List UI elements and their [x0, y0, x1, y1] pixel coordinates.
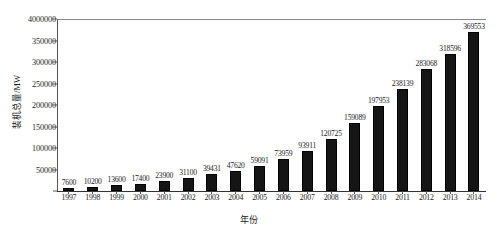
- x-axis-tick-label: 2006: [271, 193, 295, 207]
- bar: [254, 166, 265, 191]
- bar: [159, 181, 170, 191]
- bar-slot: 10200: [81, 19, 105, 191]
- x-axis-tick-label: 2002: [176, 193, 200, 207]
- x-axis-tick-label: 1999: [105, 193, 129, 207]
- top-artifact-band: [0, 0, 497, 8]
- bar-slot: 238139: [391, 19, 415, 191]
- bar-slot: 39431: [200, 19, 224, 191]
- bar-value-label: 93911: [298, 141, 316, 150]
- x-axis-tick-label: 2008: [319, 193, 343, 207]
- x-axis-tick-label: 2010: [367, 193, 391, 207]
- x-axis-tick-label: 1997: [57, 193, 81, 207]
- bar: [183, 178, 194, 191]
- y-axis-tick-label: 4000000: [28, 15, 56, 24]
- x-axis-tick-label: 2000: [128, 193, 152, 207]
- x-axis-tick-label: 2005: [248, 193, 272, 207]
- bar-value-label: 159089: [344, 113, 366, 122]
- bar: [421, 69, 432, 191]
- bar-value-label: 17400: [131, 174, 149, 183]
- x-axis-tick-label: 2003: [200, 193, 224, 207]
- x-axis-tick-label: 2001: [152, 193, 176, 207]
- bar-slot: 59091: [248, 19, 272, 191]
- bar-value-label: 59091: [251, 156, 269, 165]
- x-axis-tick-label: 2011: [391, 193, 415, 207]
- bar: [206, 174, 217, 191]
- bar-slot: 318596: [438, 19, 462, 191]
- bar-value-label: 120725: [320, 129, 342, 138]
- bar: [135, 184, 146, 191]
- x-axis-tick-label: 2014: [462, 193, 486, 207]
- bar: [445, 54, 456, 191]
- bar-slot: 159089: [343, 19, 367, 191]
- bar: [230, 171, 241, 191]
- bar-slot: 31100: [176, 19, 200, 191]
- bar-slot: 197953: [367, 19, 391, 191]
- bar-slot: 13600: [105, 19, 129, 191]
- bar: [349, 123, 360, 191]
- bar-value-label: 47620: [227, 161, 245, 170]
- bar-value-label: 369553: [463, 22, 485, 31]
- bar-value-label: 23900: [155, 171, 173, 180]
- bar-value-label: 283068: [416, 59, 438, 68]
- y-axis-title: 装机总量/MW: [10, 62, 22, 142]
- x-axis-title: 年份: [0, 213, 497, 226]
- y-axis-ticks: 4000000350000300000250000200000150000100…: [0, 0, 56, 240]
- bar: [326, 139, 337, 191]
- x-axis-tick-label: 2012: [414, 193, 438, 207]
- bar-slot: 73959: [271, 19, 295, 191]
- bar: [373, 106, 384, 191]
- bar: [302, 151, 313, 191]
- bar-value-label: 318596: [439, 44, 461, 53]
- bar: [468, 32, 479, 191]
- bar: [278, 159, 289, 191]
- x-axis-tick-label: 1998: [81, 193, 105, 207]
- bar-slot: 17400: [128, 19, 152, 191]
- bar-value-label: 13600: [108, 175, 126, 184]
- bar-value-label: 31100: [179, 168, 197, 177]
- x-axis-tick-label: 2004: [224, 193, 248, 207]
- x-axis-tick-label: 2009: [343, 193, 367, 207]
- bar-slot: 93911: [295, 19, 319, 191]
- bar-value-label: 73959: [274, 149, 292, 158]
- bar-value-label: 238139: [392, 79, 414, 88]
- bar: [397, 89, 408, 191]
- bar-chart: 4000000350000300000250000200000150000100…: [0, 0, 497, 240]
- bar-value-label: 10200: [84, 177, 102, 186]
- bar-series: 7600102001360017400239003110039431476205…: [57, 19, 486, 191]
- bar-slot: 369553: [462, 19, 486, 191]
- bar-value-label: 197953: [368, 96, 390, 105]
- bar-value-label: 39431: [203, 164, 221, 173]
- bar-slot: 7600: [57, 19, 81, 191]
- x-axis-tick-label: 2013: [438, 193, 462, 207]
- bar-slot: 47620: [224, 19, 248, 191]
- bar-slot: 120725: [319, 19, 343, 191]
- bar-slot: 23900: [152, 19, 176, 191]
- x-axis-tick-label: 2007: [295, 193, 319, 207]
- bar-value-label: 7600: [62, 178, 76, 187]
- bar-slot: 283068: [414, 19, 438, 191]
- x-axis-tick-labels: 1997199819992000200120022003200420052006…: [57, 193, 486, 207]
